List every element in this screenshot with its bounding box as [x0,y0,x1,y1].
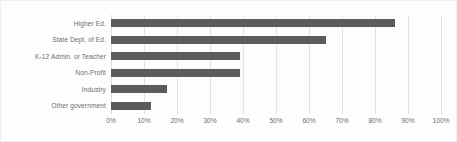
bar[interactable] [111,19,395,27]
plot-area [111,15,441,114]
bar[interactable] [111,52,240,60]
bar-row [111,65,441,82]
category-axis-labels: Higher Ed. State Dept. of Ed. K-12 Admin… [1,15,106,114]
x-tick-label: 100% [433,117,450,124]
x-tick-label: 30% [203,117,216,124]
bar-row [111,48,441,65]
bar-row [111,15,441,32]
x-tick-label: 10% [137,117,150,124]
bar-row [111,32,441,49]
category-label: State Dept. of Ed. [1,32,106,49]
x-tick-label: 0% [106,117,116,124]
bar[interactable] [111,102,151,110]
x-tick-label: 90% [401,117,414,124]
x-tick-label: 70% [335,117,348,124]
gridline [441,15,442,114]
category-label: K-12 Admin. or Teacher [1,48,106,65]
x-tick-label: 20% [170,117,183,124]
bars-layer [111,15,441,114]
x-tick-label: 60% [302,117,315,124]
bar[interactable] [111,85,167,93]
bar-row [111,81,441,98]
category-label: Other government [1,98,106,115]
category-label: Higher Ed. [1,15,106,32]
bar-row [111,98,441,115]
x-tick-label: 50% [269,117,282,124]
x-tick-label: 80% [368,117,381,124]
bar[interactable] [111,69,240,77]
x-tick-label: 40% [236,117,249,124]
category-label: Industry [1,81,106,98]
bar-chart-figure: Higher Ed. State Dept. of Ed. K-12 Admin… [0,0,457,142]
x-axis-labels: 0% 10% 20% 30% 40% 50% 60% 70% 80% 90% 1… [111,117,441,131]
category-label: Non-Profit [1,65,106,82]
bar[interactable] [111,36,326,44]
